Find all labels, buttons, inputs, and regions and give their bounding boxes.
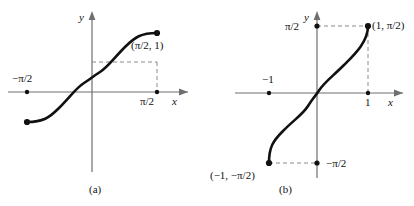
curve-endpoint-lower-left: [24, 119, 30, 125]
curve-endpoint-upper-right: [365, 23, 371, 29]
panel-b-caption: (b): [279, 184, 292, 195]
panel-b: y x −1 1 π/2 −π/2 (1, π/2) (−1, −π/2) (b…: [207, 0, 414, 206]
tick-dot-pi-over-2: [314, 23, 319, 28]
x-tick-label-minus-one: −1: [262, 74, 274, 85]
endpoint-label-upper-right: (1, π/2): [372, 20, 404, 31]
y-axis-label: y: [79, 12, 84, 23]
x-axis-label: x: [172, 96, 177, 107]
endpoint-label-lower-left: (−1, −π/2): [210, 170, 255, 181]
panel-a-caption: (a): [89, 184, 101, 195]
arcsine-curve: [269, 26, 368, 163]
curve-endpoint-upper-right: [154, 30, 160, 36]
y-axis-label: y: [304, 12, 309, 23]
x-axis-label: x: [388, 97, 393, 108]
endpoint-label-upper-right: (π/2, 1): [131, 40, 163, 51]
x-tick-label-one: 1: [365, 97, 371, 108]
tick-dot-minus-one: [267, 91, 271, 95]
inverse-sine-figure: y x −π/2 π/2 (π/2, 1) (a): [0, 0, 414, 206]
x-tick-label-minus-pi-over-2: −π/2: [12, 73, 32, 84]
curve-endpoint-lower-left: [266, 160, 272, 166]
y-tick-label-minus-pi-over-2: −π/2: [326, 158, 346, 169]
tick-dot-minus-pi-over-2: [25, 90, 29, 94]
y-tick-label-pi-over-2: π/2: [285, 21, 299, 32]
x-axis-arrowhead: [394, 90, 403, 97]
tick-dot-one: [366, 91, 370, 95]
tick-dot-minus-pi-over-2: [314, 160, 319, 165]
y-axis-arrowhead: [89, 11, 96, 20]
tick-dot-pi-over-2: [155, 90, 159, 94]
panel-a: y x −π/2 π/2 (π/2, 1) (a): [0, 0, 207, 206]
x-axis-arrowhead: [179, 89, 188, 96]
y-axis-arrowhead: [314, 11, 321, 20]
x-tick-label-pi-over-2: π/2: [140, 96, 154, 107]
